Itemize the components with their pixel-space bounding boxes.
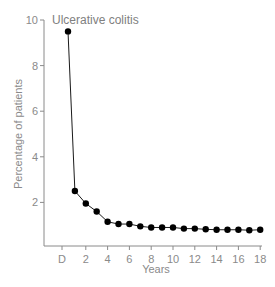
data-point bbox=[257, 227, 263, 233]
y-tick-label: 2 bbox=[32, 196, 38, 208]
series-line bbox=[68, 31, 260, 230]
data-point bbox=[159, 224, 165, 230]
y-tick-label: 10 bbox=[26, 14, 38, 26]
data-point bbox=[104, 219, 110, 225]
data-point bbox=[94, 208, 100, 214]
data-point bbox=[203, 226, 209, 232]
data-point bbox=[148, 224, 154, 230]
data-point bbox=[137, 223, 143, 229]
data-point bbox=[192, 225, 198, 231]
x-tick-label: 6 bbox=[126, 253, 132, 265]
plot-area bbox=[65, 28, 264, 233]
x-tick-label: 14 bbox=[210, 253, 222, 265]
y-tick-label: 6 bbox=[32, 105, 38, 117]
data-point bbox=[181, 225, 187, 231]
data-point bbox=[224, 227, 230, 233]
x-tick-label: 4 bbox=[105, 253, 111, 265]
data-point bbox=[65, 28, 71, 34]
data-point bbox=[72, 188, 78, 194]
data-point bbox=[170, 224, 176, 230]
data-point bbox=[83, 200, 89, 206]
x-axis-label: Years bbox=[142, 263, 170, 275]
x-tick-label: 18 bbox=[254, 253, 266, 265]
data-point bbox=[246, 227, 252, 233]
x-tick-label: 16 bbox=[232, 253, 244, 265]
data-point bbox=[115, 221, 121, 227]
data-point bbox=[213, 227, 219, 233]
data-point bbox=[126, 221, 132, 227]
y-axis-label: Percentage of patients bbox=[12, 78, 24, 189]
x-tick-label: 2 bbox=[83, 253, 89, 265]
y-tick-label: 8 bbox=[32, 60, 38, 72]
chart-title: Ulcerative colitis bbox=[52, 13, 139, 27]
x-tick-label: D bbox=[58, 253, 66, 265]
x-tick-label: 12 bbox=[189, 253, 201, 265]
line-chart: 246810D24681012141618 Ulcerative colitis… bbox=[0, 0, 275, 287]
data-point bbox=[235, 227, 241, 233]
y-tick-label: 4 bbox=[32, 151, 38, 163]
